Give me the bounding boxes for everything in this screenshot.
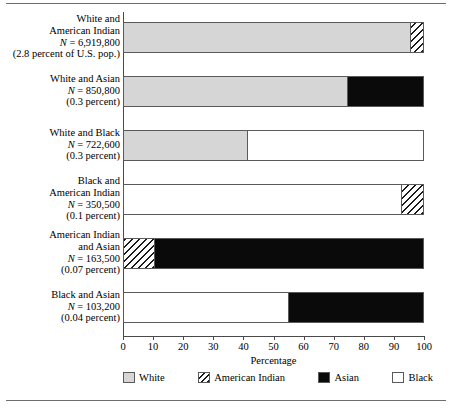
category-name-line: White and Asian (2, 73, 120, 85)
category-n-value: N = 103,200 (2, 301, 120, 313)
legend-swatch-asian-icon (318, 372, 330, 383)
bar-row (123, 120, 424, 174)
x-tick-mark (183, 336, 184, 340)
stacked-bar (123, 76, 424, 107)
category-percent-value: (0.04 percent) (2, 312, 120, 324)
category-label: White andAmerican IndianN = 6,919,800(2.… (2, 13, 120, 60)
x-tick-label: 90 (389, 341, 400, 353)
stacked-bar (123, 292, 424, 323)
category-name-line: Black and Asian (2, 289, 120, 301)
bottom-divider-rule (6, 400, 446, 401)
bar-row (123, 12, 424, 66)
category-percent-value: (0.3 percent) (2, 150, 120, 162)
category-name-line: Black and (2, 175, 120, 187)
category-percent-value: (2.8 percent of U.S. pop.) (2, 48, 120, 60)
legend-item-black[interactable]: Black (392, 372, 433, 383)
bar-segment-american_indian (124, 239, 154, 268)
legend-item-american-indian[interactable]: American Indian (198, 372, 285, 383)
bar-row (123, 228, 424, 282)
bar-segment-white (124, 77, 347, 106)
category-label: White and BlackN = 722,600(0.3 percent) (2, 127, 120, 162)
x-tick-label: 80 (359, 341, 370, 353)
legend-swatch-white-icon (123, 372, 135, 383)
x-tick-mark (364, 336, 365, 340)
bar-segment-white (124, 23, 410, 52)
category-name-line: American Indian (2, 229, 120, 241)
stacked-bar (123, 22, 424, 53)
category-label: Black andAmerican IndianN = 350,500(0.1 … (2, 175, 120, 222)
category-percent-value: (0.3 percent) (2, 96, 120, 108)
x-tick-mark (424, 336, 425, 340)
x-tick-mark (213, 336, 214, 340)
legend-label: White (139, 372, 165, 383)
category-percent-value: (0.07 percent) (2, 264, 120, 276)
x-tick-label: 70 (328, 341, 339, 353)
category-n-value: N = 350,500 (2, 199, 120, 211)
legend-label: American Indian (214, 372, 285, 383)
x-tick-mark (274, 336, 275, 340)
x-tick-label: 10 (148, 341, 159, 353)
x-tick-label: 60 (298, 341, 309, 353)
legend-item-white[interactable]: White (123, 372, 165, 383)
x-tick-label: 50 (268, 341, 279, 353)
x-tick-mark (334, 336, 335, 340)
x-tick-label: 0 (120, 341, 125, 353)
category-name-line: American Indian (2, 187, 120, 199)
x-tick-mark (394, 336, 395, 340)
category-name-line: and Asian (2, 241, 120, 253)
category-name-line: White and (2, 13, 120, 25)
bar-segment-black (247, 131, 423, 160)
legend: WhiteAmerican IndianAsianBlack (123, 372, 433, 383)
legend-label: Asian (334, 372, 359, 383)
bar-row (123, 282, 424, 336)
bar-segment-asian (288, 293, 423, 322)
bar-segment-white (124, 131, 247, 160)
n-symbol: N (68, 253, 75, 264)
category-n-value: N = 6,919,800 (2, 37, 120, 49)
legend-item-asian[interactable]: Asian (318, 372, 359, 383)
bar-segment-american_indian (410, 23, 423, 52)
n-symbol: N (68, 85, 75, 96)
x-axis-title: Percentage (123, 355, 424, 366)
figure: White andAmerican IndianN = 6,919,800(2.… (0, 0, 452, 412)
x-tick-label: 40 (238, 341, 249, 353)
x-tick-mark (304, 336, 305, 340)
x-tick-label: 30 (208, 341, 219, 353)
bar-row (123, 174, 424, 228)
category-percent-value: (0.1 percent) (2, 210, 120, 222)
bar-row (123, 66, 424, 120)
bar-segment-black (124, 293, 288, 322)
x-tick-label: 100 (416, 341, 432, 353)
x-tick-label: 20 (178, 341, 189, 353)
category-n-value: N = 722,600 (2, 139, 120, 151)
category-n-value: N = 850,800 (2, 85, 120, 97)
n-symbol: N (68, 139, 75, 150)
legend-label: Black (408, 372, 433, 383)
x-tick-mark (153, 336, 154, 340)
bar-segment-american_indian (401, 185, 423, 214)
stacked-bar (123, 130, 424, 161)
stacked-bar (123, 184, 424, 215)
legend-swatch-black-icon (392, 372, 404, 383)
x-tick-mark (123, 336, 124, 340)
top-divider-rule (6, 3, 446, 4)
category-label: American Indianand AsianN = 163,500(0.07… (2, 229, 120, 276)
category-name-line: White and Black (2, 127, 120, 139)
n-symbol: N (60, 37, 67, 48)
bar-segment-asian (154, 239, 423, 268)
legend-swatch-american-indian-icon (198, 372, 210, 383)
bar-segment-black (124, 185, 401, 214)
x-tick-mark (243, 336, 244, 340)
category-label: White and AsianN = 850,800(0.3 percent) (2, 73, 120, 108)
category-name-line: American Indian (2, 25, 120, 37)
bar-segment-asian (347, 77, 423, 106)
category-label: Black and AsianN = 103,200(0.04 percent) (2, 289, 120, 324)
n-symbol: N (68, 199, 75, 210)
category-n-value: N = 163,500 (2, 253, 120, 265)
stacked-bar (123, 238, 424, 269)
n-symbol: N (68, 301, 75, 312)
